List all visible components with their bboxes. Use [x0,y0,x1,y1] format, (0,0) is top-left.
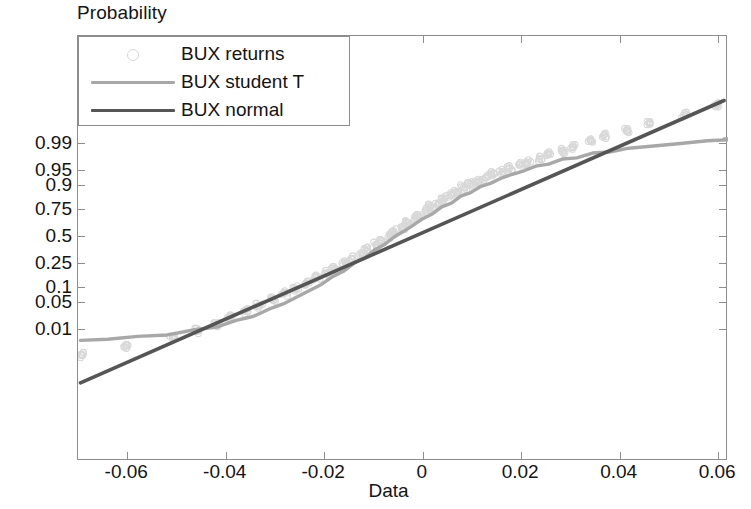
x-tick-label: -0.04 [203,462,246,482]
x-tick-mark [521,452,522,459]
y-tick-mark [719,236,726,237]
y-tick-mark [78,302,85,303]
x-tick-mark [127,452,128,459]
y-tick-mark [719,185,726,186]
legend-sample-line [87,96,179,124]
legend-item-bux-student-t: BUX student T [79,68,351,96]
x-tick-mark [620,452,621,459]
legend-sample-line [87,68,179,96]
legend-sample-marker [87,40,179,68]
y-tick-mark [719,209,726,210]
legend-label: BUX returns [181,43,284,65]
scatter-series-bux-returns [78,100,721,361]
y-tick-mark [78,185,85,186]
x-tick-mark [324,452,325,459]
y-tick-mark [78,209,85,210]
y-tick-label: 0.75 [6,199,72,218]
legend: BUX returns BUX student T BUX normal [78,36,350,126]
line-swatch-icon [91,81,175,84]
line-swatch-icon [91,109,175,112]
y-tick-mark [78,263,85,264]
y-tick-mark [78,170,85,171]
x-tick-mark [718,452,719,459]
y-tick-mark [78,143,85,144]
legend-label: BUX normal [181,99,283,121]
legend-item-bux-returns: BUX returns [79,40,351,68]
x-tick-label: 0.06 [699,462,736,482]
x-tick-mark [423,452,424,459]
y-tick-mark [719,329,726,330]
x-tick-label: -0.02 [302,462,345,482]
x-tick-label: 0.04 [600,462,637,482]
x-axis-title-text: Data [368,480,408,501]
y-tick-label: 0.01 [6,319,72,338]
y-tick-label: 0.25 [6,253,72,272]
y-tick-label: 0.5 [6,226,72,245]
y-tick-label: 0.99 [6,133,72,152]
y-tick-mark [719,170,726,171]
y-tick-mark [719,143,726,144]
x-tick-label: 0.02 [502,462,539,482]
y-tick-mark [719,287,726,288]
x-tick-mark [620,36,621,43]
x-tick-label: 0 [416,462,427,482]
y-tick-mark [719,302,726,303]
legend-item-bux-normal: BUX normal [79,96,351,124]
x-tick-mark [521,36,522,43]
y-tick-label: 0.05 [6,292,72,311]
circle-marker-icon [127,49,139,61]
legend-label: BUX student T [181,71,304,93]
y-axis-title: Probability [77,2,167,24]
y-tick-label: 0.9 [6,175,72,194]
y-tick-label-group: 0.990.950.90.750.50.250.10.050.01 [4,35,72,460]
x-tick-mark [423,36,424,43]
x-tick-mark [718,36,719,43]
line-series-bux-normal [80,101,724,383]
y-tick-mark [719,263,726,264]
probability-plot-figure: Probability 0.990.950.90.750.50.250.10.0… [0,0,751,509]
y-tick-mark [78,236,85,237]
y-tick-mark [78,329,85,330]
x-tick-mark [226,452,227,459]
x-axis-title: Data [0,480,751,502]
y-tick-mark [78,287,85,288]
x-tick-label: -0.06 [105,462,148,482]
